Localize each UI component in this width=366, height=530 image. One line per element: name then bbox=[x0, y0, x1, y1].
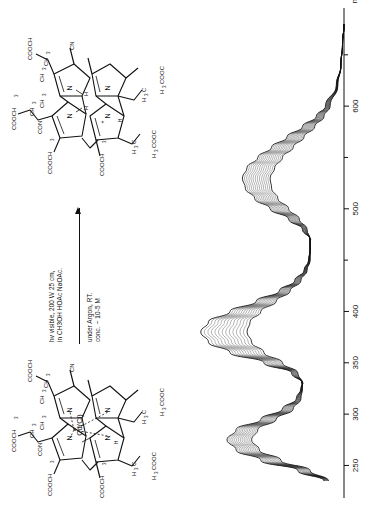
svg-text:C: C bbox=[141, 87, 147, 92]
x-tick-label: 350 bbox=[351, 356, 360, 370]
svg-text:3: 3 bbox=[134, 467, 139, 470]
svg-text:3: 3 bbox=[42, 93, 47, 96]
structure-reactant-cd-corrin: NN NN Cd(Cl) COOCH3 COOCH3 COOCH3 COOCH3… bbox=[4, 354, 172, 522]
svg-text:H: H bbox=[159, 90, 165, 94]
svg-text:CH: CH bbox=[39, 395, 45, 404]
svg-text:H: H bbox=[83, 106, 89, 110]
svg-text:3: 3 bbox=[42, 415, 47, 418]
svg-text:C: C bbox=[141, 409, 147, 414]
svg-text:COOCH: COOCH bbox=[47, 474, 53, 496]
figure-root: NN NN Cd(Cl) COOCH3 COOCH3 COOCH3 COOCH3… bbox=[0, 0, 366, 530]
svg-text:COOCH: COOCH bbox=[11, 430, 17, 452]
svg-text:N: N bbox=[104, 113, 111, 118]
svg-text:H: H bbox=[131, 150, 137, 154]
x-tick-label: 500 bbox=[351, 202, 360, 216]
svg-text:COOCH: COOCH bbox=[99, 476, 105, 498]
svg-text:3: 3 bbox=[32, 101, 37, 104]
reaction-arrow-block: hv visible, 200 W 25 cm, in CH3OH HOAc N… bbox=[46, 204, 132, 344]
svg-text:H: H bbox=[118, 119, 123, 122]
x-tick-label: 250 bbox=[351, 458, 360, 472]
svg-text:3: 3 bbox=[14, 416, 19, 419]
svg-text:3: 3 bbox=[102, 462, 107, 465]
x-tick-label: 300 bbox=[351, 407, 360, 421]
svg-text:N: N bbox=[66, 435, 73, 440]
svg-text:N: N bbox=[66, 113, 73, 118]
svg-text:N: N bbox=[104, 85, 111, 90]
svg-text:N: N bbox=[66, 407, 73, 412]
svg-text:3: 3 bbox=[154, 471, 159, 474]
conditions-line-3: under Argon, RT. bbox=[86, 293, 94, 342]
svg-text:3: 3 bbox=[46, 373, 51, 376]
x-tick-label: 400 bbox=[351, 304, 360, 318]
svg-text:CH: CH bbox=[39, 73, 45, 82]
svg-text:CN: CN bbox=[69, 41, 75, 50]
svg-text:3: 3 bbox=[42, 389, 47, 392]
svg-text:CH: CH bbox=[29, 107, 35, 116]
spectrum-trace bbox=[208, 24, 344, 481]
svg-text:3: 3 bbox=[32, 423, 37, 426]
svg-text:COOCH: COOCH bbox=[11, 108, 17, 130]
svg-text:COOCH: COOCH bbox=[27, 38, 33, 60]
rotated-plate: NN NN Cd(Cl) COOCH3 COOCH3 COOCH3 COOCH3… bbox=[0, 0, 366, 530]
svg-text:3: 3 bbox=[50, 460, 55, 463]
svg-text:COOC: COOC bbox=[151, 451, 157, 470]
svg-text:3: 3 bbox=[46, 51, 51, 54]
svg-text:H: H bbox=[159, 412, 165, 416]
svg-text:CH: CH bbox=[43, 57, 49, 66]
arrow-shaft bbox=[79, 208, 80, 344]
svg-text:3: 3 bbox=[144, 93, 149, 96]
svg-text:H: H bbox=[141, 98, 147, 102]
svg-text:COOCH: COOCH bbox=[47, 152, 53, 174]
svg-text:H: H bbox=[131, 472, 137, 476]
svg-text:N: N bbox=[104, 407, 111, 412]
arrow-head-icon bbox=[75, 207, 81, 214]
svg-text:CH: CH bbox=[29, 429, 35, 438]
svg-text:3: 3 bbox=[14, 94, 19, 97]
conditions-line-4: conc. ~ 10-5 M bbox=[94, 293, 102, 342]
svg-text:CH: CH bbox=[43, 379, 49, 388]
svg-text:C: C bbox=[131, 139, 137, 144]
svg-text:3: 3 bbox=[162, 407, 167, 410]
svg-text:COOC: COOC bbox=[159, 65, 165, 84]
svg-text:3: 3 bbox=[162, 85, 167, 88]
svg-text:N: N bbox=[66, 85, 73, 90]
svg-text:CON: CON bbox=[37, 443, 43, 456]
svg-text:+: + bbox=[99, 120, 105, 123]
reaction-conditions-above: hv visible, 200 W 25 cm, in CH3OH HOAc N… bbox=[48, 268, 64, 342]
svg-text:COOC: COOC bbox=[151, 129, 157, 148]
svg-text:3: 3 bbox=[144, 415, 149, 418]
reaction-conditions-below: under Argon, RT. conc. ~ 10-5 M bbox=[86, 293, 102, 342]
svg-text:3: 3 bbox=[102, 140, 107, 143]
svg-text:H: H bbox=[151, 476, 157, 480]
isosbestic-point-marker bbox=[309, 239, 311, 241]
conditions-line-1: hv visible, 200 W 25 cm, bbox=[48, 268, 56, 342]
svg-text:3: 3 bbox=[42, 67, 47, 70]
svg-text:H: H bbox=[114, 441, 119, 444]
svg-text:H: H bbox=[83, 92, 89, 96]
svg-text:H: H bbox=[141, 420, 147, 424]
spectrum-trace bbox=[204, 24, 344, 481]
x-tick-label: 600 bbox=[351, 99, 360, 113]
svg-text:COOCH: COOCH bbox=[27, 360, 33, 382]
svg-text:CH: CH bbox=[39, 99, 45, 108]
svg-text:Cd(Cl): Cd(Cl) bbox=[75, 414, 84, 436]
svg-text:3: 3 bbox=[134, 145, 139, 148]
svg-text:COOCH: COOCH bbox=[99, 154, 105, 176]
svg-text:3: 3 bbox=[50, 138, 55, 141]
svg-text:3: 3 bbox=[154, 149, 159, 152]
svg-text:N: N bbox=[104, 435, 111, 440]
uv-vis-spectrum: 250300350400500600nm bbox=[176, 0, 366, 530]
svg-text:CON: CON bbox=[37, 121, 43, 134]
isosbestic-point-marker bbox=[301, 382, 303, 384]
reaction-scheme: NN NN Cd(Cl) COOCH3 COOCH3 COOCH3 COOCH3… bbox=[0, 0, 176, 530]
svg-text:CH: CH bbox=[39, 421, 45, 430]
x-axis-unit-label: nm bbox=[350, 0, 359, 4]
svg-text:COOC: COOC bbox=[159, 387, 165, 406]
structure-product-free-base-corrin: NN NN H H + COOCH3 COOCH3 COOCH3 COOCH3 … bbox=[4, 32, 172, 200]
spectrum-trace bbox=[201, 24, 344, 481]
svg-text:H: H bbox=[151, 154, 157, 158]
conditions-line-2: in CH3OH HOAc NaOAc. bbox=[56, 268, 64, 342]
spectrum-plot: 250300350400500600nm bbox=[176, 0, 366, 530]
svg-text:CN: CN bbox=[69, 363, 75, 372]
svg-text:C: C bbox=[131, 461, 137, 466]
